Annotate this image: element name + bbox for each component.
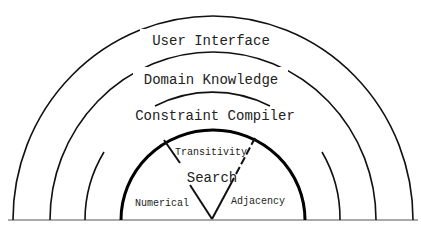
arc-constraint-compiler-left — [85, 152, 104, 220]
label-adjacency: Adjacency — [231, 196, 285, 207]
divider-left-lower — [190, 185, 212, 219]
label-domain-knowledge: Domain Knowledge — [144, 72, 278, 88]
label-numerical: Numerical — [135, 198, 189, 209]
arc-constraint-compiler-right — [322, 152, 340, 220]
arc-constraint-compiler-top — [155, 92, 270, 106]
label-transitivity: Transitivity — [175, 147, 247, 158]
label-search: Search — [187, 170, 237, 186]
layer-diagram: User Interface Domain Knowledge Constrai… — [0, 0, 421, 233]
label-constraint-compiler: Constraint Compiler — [135, 108, 295, 124]
label-user-interface: User Interface — [152, 33, 270, 49]
